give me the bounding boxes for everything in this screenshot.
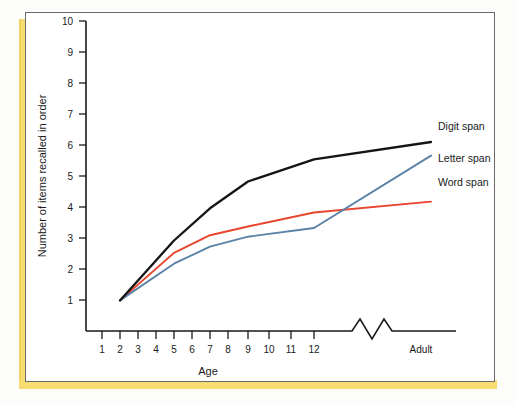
x-tick-label-12: 12 <box>308 344 320 355</box>
x-tick-label-3: 3 <box>135 344 141 355</box>
x-tick-label-6: 6 <box>189 344 195 355</box>
x-tick-label-adult: Adult <box>410 344 433 355</box>
x-tick-label-2: 2 <box>117 344 123 355</box>
y-tick-label-6: 6 <box>67 140 73 151</box>
x-tick-label-11: 11 <box>286 344 297 355</box>
figure-page: 1 2 3 4 5 6 7 8 9 10 <box>0 0 517 406</box>
x-axis-line-with-break <box>86 319 456 339</box>
legend-label-digit-span: Digit span <box>438 120 485 132</box>
x-tick-label-7: 7 <box>207 344 213 355</box>
y-tick-label-2: 2 <box>67 264 73 275</box>
x-tick-label-9: 9 <box>245 344 251 355</box>
x-tick-label-10: 10 <box>263 344 275 355</box>
page-edge-left-shade <box>19 19 21 389</box>
series-line-letter-span <box>120 156 431 301</box>
y-tick-label-7: 7 <box>67 109 73 120</box>
x-tick-label-8: 8 <box>225 344 231 355</box>
y-axis-ticks <box>79 21 86 300</box>
legend-label-letter-span: Letter span <box>438 152 491 164</box>
x-tick-label-4: 4 <box>153 344 159 355</box>
y-tick-label-5: 5 <box>67 171 73 182</box>
y-tick-label-1: 1 <box>67 295 73 306</box>
y-tick-label-4: 4 <box>67 202 73 213</box>
x-tick-label-1: 1 <box>99 344 105 355</box>
x-axis-ticks <box>102 331 314 339</box>
x-tick-label-5: 5 <box>171 344 177 355</box>
y-tick-label-3: 3 <box>67 233 73 244</box>
chart-panel: 1 2 3 4 5 6 7 8 9 10 <box>25 12 495 382</box>
y-tick-label-9: 9 <box>67 47 73 58</box>
line-chart: 1 2 3 4 5 6 7 8 9 10 <box>26 13 494 381</box>
series-line-word-span <box>120 202 431 301</box>
y-tick-label-10: 10 <box>62 16 74 27</box>
y-axis-title: Number of items recalled in order <box>36 94 48 257</box>
y-tick-label-8: 8 <box>67 78 73 89</box>
legend-label-word-span: Word span <box>438 176 489 188</box>
x-axis-title: Age <box>198 365 218 377</box>
